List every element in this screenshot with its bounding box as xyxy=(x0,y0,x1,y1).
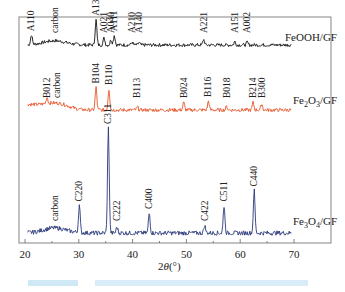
peak-label: B012 xyxy=(42,77,52,98)
x-tick-label: 20 xyxy=(20,248,32,260)
peak-label: B104 xyxy=(91,63,101,84)
peak-label: B024 xyxy=(179,77,189,98)
peak-label: A111 xyxy=(109,11,119,32)
peak-label: C222 xyxy=(112,200,122,221)
peak-label: C440 xyxy=(249,166,259,187)
x-tick-label: 70 xyxy=(289,248,301,260)
peak-label: carbon xyxy=(50,195,60,221)
series-names: FeOOH/GFFe2O3/GFFe3O4/GF xyxy=(285,31,337,230)
series-layer xyxy=(28,19,291,235)
series-name: FeOOH/GF xyxy=(285,31,337,43)
peak-label: C311 xyxy=(103,104,113,124)
peak-label: A151 xyxy=(230,12,240,33)
peak-label: A221 xyxy=(199,12,209,33)
series-name: Fe3O4/GF xyxy=(293,215,337,230)
x-tick-label: 50 xyxy=(181,248,193,260)
peak-label: B113 xyxy=(132,78,142,98)
peak-label: B116 xyxy=(203,77,213,97)
peak-label: A140 xyxy=(134,12,144,33)
peak-label: C422 xyxy=(200,200,210,221)
series-name: Fe2O3/GF xyxy=(293,94,337,109)
peak-label: C511 xyxy=(219,181,229,201)
x-tick-label: 40 xyxy=(127,248,139,260)
x-axis-ticks: 203040506070 xyxy=(20,239,301,260)
peak-label: A002 xyxy=(242,12,252,33)
peak-label: carbon xyxy=(52,72,62,98)
peak-label: carbon xyxy=(50,7,60,33)
x-tick-label: 30 xyxy=(73,248,85,260)
peak-label: B018 xyxy=(222,77,232,98)
peak-label: A110 xyxy=(26,10,36,31)
peak-label: C400 xyxy=(144,188,154,209)
figure-caption xyxy=(28,280,308,286)
peak-label: B110 xyxy=(104,65,114,85)
peak-label: C220 xyxy=(74,181,84,202)
x-tick-label: 60 xyxy=(235,248,247,260)
peak-label: B300 xyxy=(257,77,267,98)
x-axis-label: 2θ(°) xyxy=(158,260,181,273)
plot-frame xyxy=(19,17,331,243)
xrd-chart: 203040506070 A110carbonA130A021A040A111A… xyxy=(0,0,345,292)
